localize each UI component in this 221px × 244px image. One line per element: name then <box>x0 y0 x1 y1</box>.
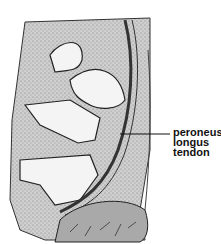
peroneus-longus-tendon-label: peroneus longus tendon <box>173 127 221 157</box>
label-line-3: tendon <box>173 147 221 157</box>
anatomy-figure: peroneus longus tendon <box>0 0 221 244</box>
anatomy-illustration <box>0 0 221 244</box>
